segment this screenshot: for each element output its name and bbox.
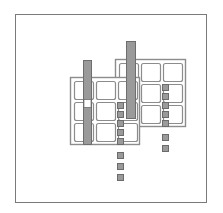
small-square bbox=[163, 103, 169, 109]
small-square bbox=[163, 112, 169, 118]
small-square bbox=[163, 135, 169, 141]
small-square bbox=[163, 94, 169, 100]
small-square bbox=[163, 121, 169, 127]
small-square bbox=[163, 146, 169, 152]
grid-cell bbox=[142, 106, 161, 124]
abstract-grid-diagram bbox=[0, 0, 223, 213]
small-square bbox=[118, 103, 124, 109]
grid-cell bbox=[97, 103, 116, 121]
illustration-canvas bbox=[0, 0, 223, 213]
right-vertical-bar bbox=[127, 42, 136, 119]
grid-cell bbox=[142, 85, 161, 103]
small-square bbox=[163, 85, 169, 91]
grid-cell bbox=[97, 124, 116, 142]
small-square bbox=[118, 130, 124, 136]
small-square bbox=[118, 164, 124, 170]
small-square bbox=[118, 153, 124, 159]
center-small-column bbox=[118, 103, 124, 181]
small-square bbox=[118, 121, 124, 127]
grid-cell bbox=[97, 82, 116, 100]
grid-cell bbox=[164, 64, 183, 82]
small-square bbox=[118, 112, 124, 118]
left-vertical-bar-gap bbox=[85, 100, 91, 108]
small-square bbox=[118, 175, 124, 181]
grid-cell bbox=[142, 64, 161, 82]
small-square bbox=[118, 139, 124, 145]
